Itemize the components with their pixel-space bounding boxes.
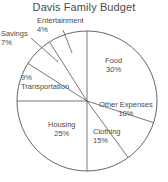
slice-label-savings: Savings 7% [1,30,28,47]
slice-label-entertainment: Entertainment 4% [37,17,84,34]
slice-label-entertainment-percent: 4% [37,26,84,35]
slice-label-other-expenses-percent: 10% [99,110,153,119]
slice-label-clothing-percent: 15% [93,137,121,146]
pie-chart-figure: Davis Family Budget Savings 7% Entertain… [0,0,168,182]
slice-label-housing: Housing 25% [48,121,76,138]
slice-label-clothing: Clothing 15% [93,128,121,145]
slice-label-food: Food 30% [105,57,122,74]
slice-label-transportation: 9% Transportation [21,74,69,91]
slice-label-food-percent: 30% [105,66,122,75]
slice-label-savings-percent: 7% [1,39,28,48]
slice-label-other-expenses: Other Expenses 10% [99,101,153,118]
slice-label-transportation-name: Transportation [21,83,69,92]
slice-label-housing-percent: 25% [48,130,76,139]
